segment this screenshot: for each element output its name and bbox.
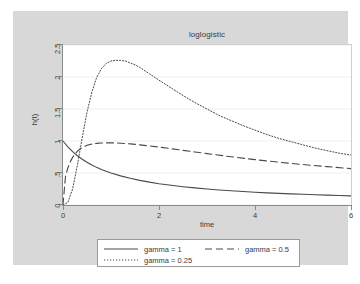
x-tick-mark — [159, 206, 160, 210]
y-tick-label: 1.5 — [53, 108, 62, 132]
plot-area — [63, 44, 352, 205]
x-tick-label: 2 — [149, 211, 169, 220]
chart-screenshot: loglogistic h(t) time 0.511.522.50246 ga… — [0, 0, 360, 284]
x-tick-mark — [63, 206, 64, 210]
y-tick-label: .5 — [53, 172, 62, 196]
graph-region: loglogistic h(t) time 0.511.522.50246 ga… — [13, 11, 348, 265]
series-line — [63, 143, 351, 205]
y-tick-label-wrap: 2.5 — [33, 39, 57, 49]
y-tick-label-wrap: 1.5 — [33, 103, 57, 113]
y-tick-label-wrap: 1 — [33, 135, 57, 145]
chart-title: loglogistic — [63, 30, 351, 39]
plot-curves — [63, 45, 351, 205]
x-axis-title: time — [63, 220, 351, 229]
x-tick-label: 0 — [53, 211, 73, 220]
series-line — [63, 60, 351, 205]
y-tick-label-wrap: 2 — [33, 71, 57, 81]
x-axis-line — [62, 205, 352, 206]
y-tick-label-wrap: 0 — [33, 199, 57, 209]
legend-line-swatch — [205, 245, 239, 253]
legend-label: gamma = 0.5 — [245, 245, 289, 254]
x-tick-label: 4 — [245, 211, 265, 220]
x-tick-label: 6 — [341, 211, 360, 220]
legend-item[interactable]: gamma = 0.25 — [104, 254, 192, 266]
series-line — [63, 141, 351, 196]
y-tick-label: 2.5 — [53, 44, 62, 68]
legend-label: gamma = 0.25 — [144, 256, 192, 265]
y-axis-title: h(t) — [30, 114, 39, 125]
y-tick-label: 2 — [53, 76, 62, 100]
legend-line-swatch — [104, 256, 138, 264]
x-tick-mark — [255, 206, 256, 210]
y-tick-label-wrap: .5 — [33, 167, 57, 177]
y-axis-line — [62, 44, 63, 205]
legend-label: gamma = 1 — [144, 245, 182, 254]
chart-legend: gamma = 1gamma = 0.5gamma = 0.25 — [97, 239, 300, 267]
y-tick-label: 1 — [53, 140, 62, 164]
x-tick-mark — [351, 206, 352, 210]
legend-item[interactable]: gamma = 0.5 — [205, 243, 289, 255]
legend-line-swatch — [104, 245, 138, 253]
